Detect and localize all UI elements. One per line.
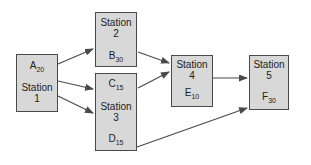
- station-3-name: Station 3: [100, 101, 131, 123]
- task-c-label: C15: [108, 78, 123, 91]
- arrow-station2-station4: [138, 52, 169, 63]
- task-d-label: D15: [108, 133, 123, 146]
- station-word: Station: [100, 101, 131, 112]
- arrow-station3-station4: [138, 72, 169, 88]
- task-e-label: E10: [185, 87, 199, 100]
- station-number: 1: [21, 93, 52, 104]
- station-2-name: Station 2: [100, 17, 131, 39]
- station-word: Station: [253, 59, 284, 70]
- station-word: Station: [100, 17, 131, 28]
- arrow-station1-station3-c: [58, 81, 93, 89]
- station-word: Station: [21, 82, 52, 93]
- task-a-label: A20: [30, 60, 44, 73]
- arrow-station1-station2: [58, 49, 93, 64]
- task-f-label: F30: [262, 91, 276, 104]
- station-number: 3: [100, 112, 131, 123]
- station-5-box: Station 5 F30: [249, 55, 289, 110]
- arrow-station1-station3: [58, 96, 93, 113]
- station-5-name: Station 5: [253, 59, 284, 81]
- station-word: Station: [176, 59, 207, 70]
- station-number: 5: [253, 70, 284, 81]
- station-3-box: C15 Station 3 D15: [95, 73, 137, 151]
- station-number: 2: [100, 28, 131, 39]
- arrow-station3-station5: [137, 108, 247, 147]
- task-b-label: B30: [109, 50, 123, 63]
- station-number: 4: [176, 70, 207, 81]
- station-1-box: A20 Station 1: [16, 54, 58, 112]
- station-2-box: Station 2 B30: [95, 12, 137, 67]
- station-1-name: Station 1: [21, 82, 52, 104]
- assembly-line-flow-diagram: A20 Station 1 Station 2 B30 C15 Station …: [0, 0, 311, 165]
- station-4-box: Station 4 E10: [171, 55, 213, 107]
- station-4-name: Station 4: [176, 59, 207, 81]
